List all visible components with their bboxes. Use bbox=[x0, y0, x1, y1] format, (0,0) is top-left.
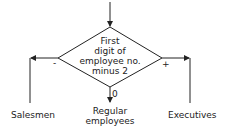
positive-sign: + bbox=[162, 59, 170, 69]
decision-line-1: First bbox=[75, 36, 145, 46]
executives-label: Executives bbox=[168, 110, 217, 120]
negative-sign: - bbox=[53, 58, 56, 68]
decision-line-3: employee no. bbox=[75, 56, 145, 66]
decision-line-4: minus 2 bbox=[75, 66, 145, 76]
decision-text: First digit of employee no. minus 2 bbox=[75, 36, 145, 76]
regular-employees-line-2: employees bbox=[80, 116, 140, 126]
decision-line-2: digit of bbox=[75, 46, 145, 56]
flowchart-canvas: First digit of employee no. minus 2 - + … bbox=[0, 0, 226, 138]
regular-employees-line-1: Regular bbox=[80, 106, 140, 116]
zero-sign: 0 bbox=[112, 89, 118, 99]
regular-employees-label: Regular employees bbox=[80, 106, 140, 126]
salesmen-label: Salesmen bbox=[11, 110, 55, 120]
